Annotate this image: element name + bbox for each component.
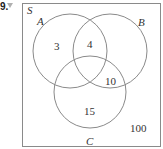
region-outside: 100	[130, 122, 147, 134]
set-a-circle	[33, 14, 107, 88]
venn-diagram: S A B C 3 4 10 15 100	[0, 0, 163, 149]
set-c-label: C	[86, 135, 94, 147]
region-a-and-b: 4	[87, 38, 93, 50]
set-b-label: B	[138, 16, 145, 28]
region-a-only: 3	[54, 40, 60, 52]
set-a-label: A	[36, 15, 44, 27]
region-b-and-c: 10	[105, 75, 117, 87]
universe-label: S	[27, 4, 33, 16]
set-c-circle	[54, 56, 126, 128]
region-c-only: 15	[84, 105, 96, 117]
